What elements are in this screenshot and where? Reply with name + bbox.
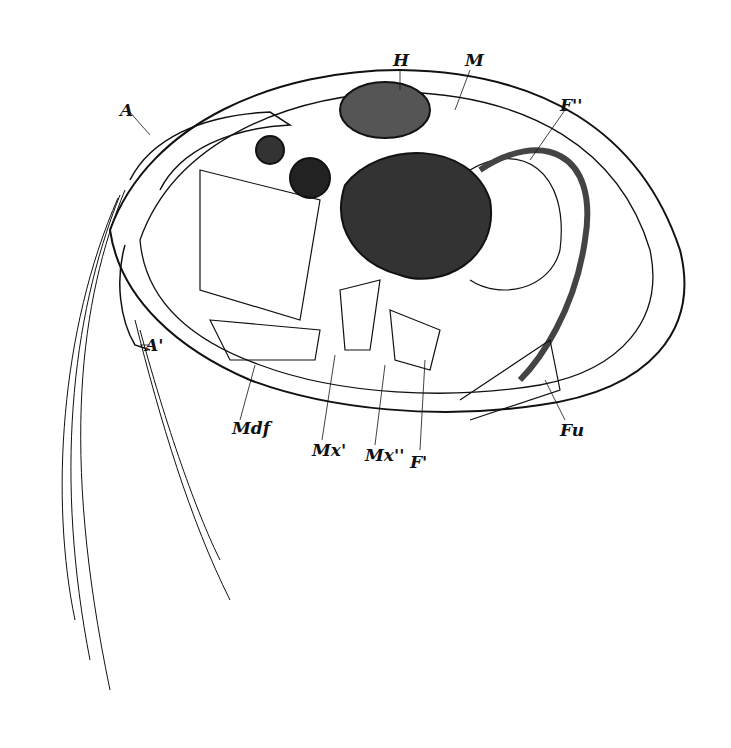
label-F1: F': [410, 452, 427, 472]
label-Mx2: Mx'': [365, 445, 404, 465]
label-A: A: [120, 100, 133, 120]
label-Mdf: Mdf: [232, 418, 270, 438]
label-A2: A': [145, 335, 163, 355]
label-H: H: [393, 50, 409, 70]
label-Mx1: Mx': [312, 440, 346, 460]
ostracod-illustration: [0, 0, 731, 748]
label-M: M: [465, 50, 484, 70]
label-Fu: Fu: [560, 420, 584, 440]
label-F2: F'': [560, 95, 582, 115]
